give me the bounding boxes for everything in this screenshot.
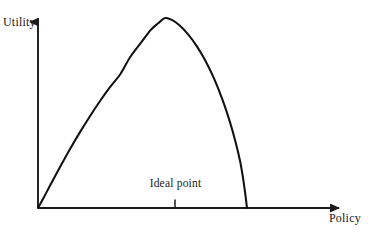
y-axis-label: Utility: [3, 16, 36, 29]
utility-policy-chart: Utility Policy Ideal point: [0, 0, 375, 235]
x-axis-label: Policy: [329, 212, 361, 225]
ideal-point-annotation: Ideal point: [138, 177, 213, 190]
chart-canvas: [0, 0, 375, 235]
